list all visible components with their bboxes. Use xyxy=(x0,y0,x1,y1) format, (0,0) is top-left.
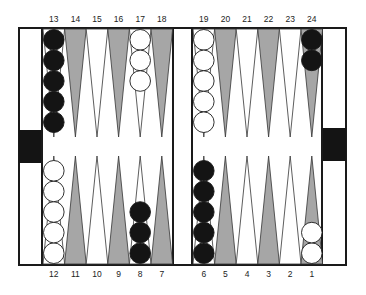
left-tray xyxy=(19,28,42,265)
black-checker xyxy=(130,222,151,243)
right-tray xyxy=(322,28,346,265)
black-checker xyxy=(302,50,323,71)
white-checker xyxy=(44,243,65,264)
white-checker xyxy=(194,50,215,71)
black-checker xyxy=(44,112,65,133)
point-label: 20 xyxy=(221,14,231,24)
point-label: 17 xyxy=(135,14,145,24)
white-checker xyxy=(194,71,215,92)
right-tray-block xyxy=(322,128,346,161)
white-checker xyxy=(130,50,151,71)
white-checker xyxy=(194,30,215,51)
point-label: 18 xyxy=(157,14,167,24)
bottom-point-labels: 121110987654321 xyxy=(49,269,314,279)
black-checker xyxy=(194,181,215,202)
black-checker xyxy=(302,30,323,51)
point-label: 12 xyxy=(49,269,59,279)
white-checker xyxy=(302,243,323,264)
point-label: 6 xyxy=(201,269,206,279)
black-checker xyxy=(194,222,215,243)
point-label: 5 xyxy=(223,269,228,279)
black-checker xyxy=(44,50,65,71)
point-label: 9 xyxy=(116,269,121,279)
black-checker xyxy=(130,243,151,264)
black-checker xyxy=(44,71,65,92)
white-checker xyxy=(130,30,151,51)
point-label: 14 xyxy=(71,14,81,24)
point-label: 11 xyxy=(71,269,80,279)
white-checker xyxy=(194,112,215,133)
top-point-labels: 131415161718192021222324 xyxy=(49,14,317,24)
point-label: 15 xyxy=(92,14,102,24)
point-label: 13 xyxy=(49,14,59,24)
point-label: 22 xyxy=(264,14,274,24)
point-label: 10 xyxy=(92,269,102,279)
point-label: 19 xyxy=(199,14,209,24)
white-checker xyxy=(44,222,65,243)
white-checker xyxy=(44,161,65,182)
point-label: 1 xyxy=(309,269,314,279)
point-label: 8 xyxy=(138,269,143,279)
white-checker xyxy=(302,222,323,243)
point-label: 24 xyxy=(307,14,317,24)
point-label: 2 xyxy=(288,269,293,279)
black-checker xyxy=(194,243,215,264)
point-label: 23 xyxy=(285,14,295,24)
black-checker xyxy=(130,202,151,223)
white-checker xyxy=(194,91,215,112)
backgammon-board: 131415161718192021222324 121110987654321 xyxy=(0,0,366,295)
point-label: 7 xyxy=(159,269,164,279)
point-label: 3 xyxy=(266,269,271,279)
white-checker xyxy=(44,202,65,223)
point-label: 16 xyxy=(114,14,124,24)
point-label: 4 xyxy=(245,269,250,279)
white-checker xyxy=(44,181,65,202)
left-tray-block xyxy=(19,130,42,163)
point-label: 21 xyxy=(242,14,252,24)
white-checker xyxy=(130,71,151,92)
black-checker xyxy=(194,161,215,182)
bar xyxy=(173,28,192,265)
black-checker xyxy=(194,202,215,223)
black-checker xyxy=(44,30,65,51)
black-checker xyxy=(44,91,65,112)
